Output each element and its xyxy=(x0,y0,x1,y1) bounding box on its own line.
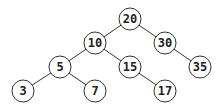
tree-node-20: 20 xyxy=(119,8,141,30)
tree-node-10: 10 xyxy=(84,32,106,54)
tree-node-3: 3 xyxy=(12,80,34,102)
node-label: 30 xyxy=(158,36,172,50)
tree-node-30: 30 xyxy=(154,32,176,54)
tree-node-7: 7 xyxy=(84,80,106,102)
tree-node-17: 17 xyxy=(154,80,176,102)
node-label: 35 xyxy=(193,60,207,74)
node-label: 15 xyxy=(123,60,137,74)
tree-nodes: 201030515353717 xyxy=(12,8,211,102)
tree-node-35: 35 xyxy=(189,56,211,78)
node-label: 5 xyxy=(56,60,63,74)
node-label: 3 xyxy=(19,84,26,98)
node-label: 20 xyxy=(123,12,137,26)
node-label: 10 xyxy=(88,36,102,50)
tree-edges xyxy=(23,19,200,91)
node-label: 7 xyxy=(91,84,98,98)
binary-tree-diagram: 201030515353717 xyxy=(0,0,222,112)
tree-node-5: 5 xyxy=(49,56,71,78)
node-label: 17 xyxy=(158,84,172,98)
tree-node-15: 15 xyxy=(119,56,141,78)
